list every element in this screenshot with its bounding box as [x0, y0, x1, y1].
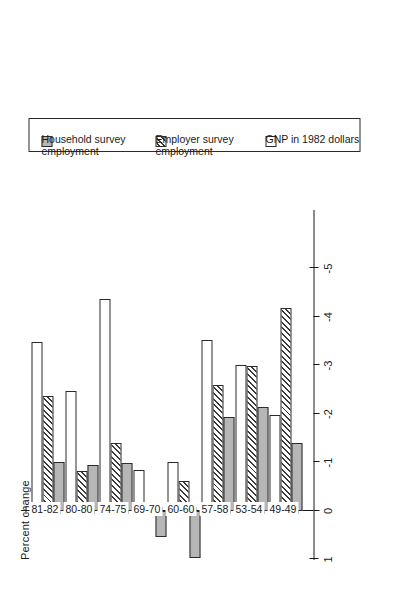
legend-label-line1: GNP in 1982 dollars: [265, 133, 359, 145]
value-axis-tick-label: -4: [321, 302, 333, 332]
value-axis-line: [313, 210, 314, 560]
legend-label-line1: Household survey: [41, 133, 125, 145]
bar-gnp: [99, 299, 110, 511]
value-axis-tick-label: -3: [321, 351, 333, 381]
bar-employer: [246, 366, 257, 511]
category-label: 80-80: [63, 502, 94, 516]
category-label: 53-54: [233, 502, 264, 516]
value-axis-tick: [313, 365, 319, 366]
bar-gnp: [65, 391, 76, 511]
value-axis-tick: [313, 462, 319, 463]
value-axis-tick-label: 0: [321, 496, 333, 526]
bar-household: [291, 443, 302, 511]
category-label: 57-58: [199, 502, 230, 516]
chart-figure: Percent change 10-1-2-3-4-5 49-4953-5457…: [0, 0, 405, 590]
bar-gnp: [235, 365, 246, 511]
value-axis-tick: [313, 510, 319, 511]
legend-label-line2: employment: [41, 145, 125, 157]
category-label: 69-70: [131, 502, 162, 516]
value-axis-tick: [309, 268, 318, 269]
bar-gnp: [269, 415, 280, 511]
value-axis-tick: [309, 559, 318, 560]
legend-label: Household surveyemployment: [41, 133, 125, 157]
chart-legend: Household surveyemploymentEmployer surve…: [28, 118, 360, 152]
category-label: 49-49: [267, 502, 298, 516]
legend-entry: Household surveyemployment: [41, 117, 141, 151]
bar-household: [223, 417, 234, 511]
bar-employer: [42, 396, 53, 511]
legend-label-line1: Employer survey: [155, 133, 233, 145]
plot-area: Percent change 10-1-2-3-4-5 49-4953-5457…: [18, 160, 353, 560]
legend-entry: GNP in 1982 dollars: [265, 117, 365, 151]
value-axis-title: Percent change: [18, 480, 30, 560]
bar-gnp: [31, 342, 42, 511]
bar-employer: [212, 385, 223, 511]
legend-label-line2: employment: [155, 145, 233, 157]
value-axis-tick: [313, 413, 319, 414]
bar-employer: [110, 443, 121, 511]
category-axis-tick: [25, 507, 26, 514]
category-label: 60-60: [165, 502, 196, 516]
value-axis-tick-label: -1: [321, 448, 333, 478]
value-axis-tick: [313, 316, 319, 317]
legend-label: Employer surveyemployment: [155, 133, 233, 157]
bar-household: [189, 511, 200, 558]
legend-entry: Employer surveyemployment: [155, 117, 255, 151]
bar-gnp: [201, 340, 212, 511]
value-axis-tick-label: -2: [321, 399, 333, 429]
bar-household: [257, 407, 268, 511]
legend-label: GNP in 1982 dollars: [265, 133, 359, 145]
category-label: 74-75: [97, 502, 128, 516]
rotated-plot-canvas: Percent change 10-1-2-3-4-5 49-4953-5457…: [0, 0, 405, 590]
bar-employer: [280, 308, 291, 511]
category-label: 81-82: [29, 502, 60, 516]
value-axis-tick-label: 1: [321, 545, 333, 575]
value-axis-tick-label: -5: [321, 254, 333, 284]
